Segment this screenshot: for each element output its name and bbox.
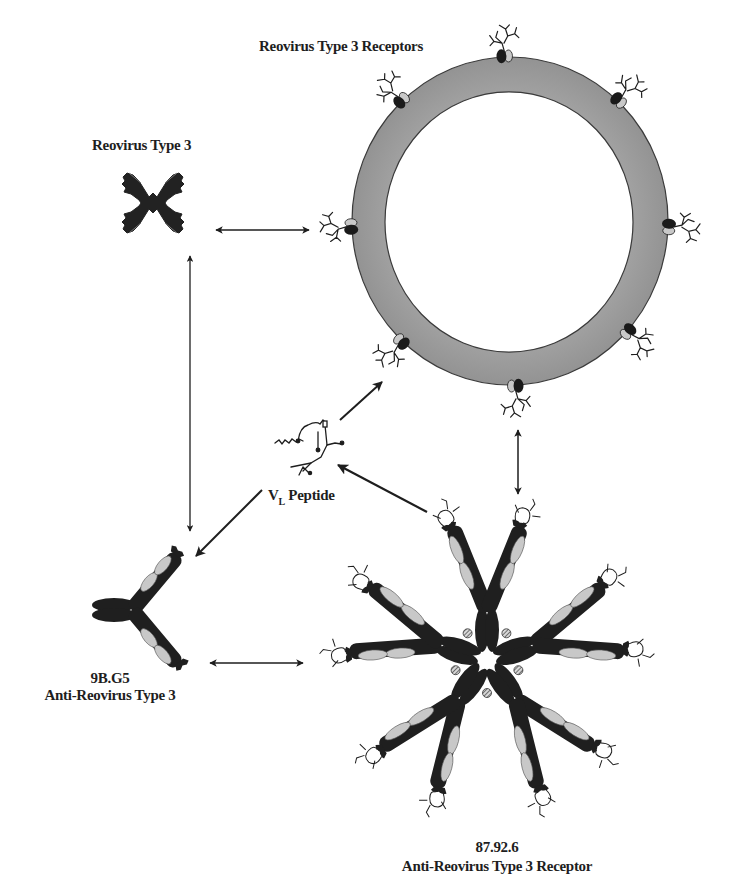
joining-link [451,666,460,675]
vl-peptide-icon [275,420,344,475]
receptors-label: Reovirus Type 3 Receptors [259,38,423,54]
pentamer-subunit [428,494,545,652]
antibody-id-label: 9B.G5 [91,670,130,686]
joining-link [483,689,492,698]
arrows [190,230,518,663]
peptide-label-v: V [268,487,279,503]
virus-label: Reovirus Type 3 [92,137,191,153]
joining-link [502,629,511,638]
antibody-name-label: Anti-Reovirus Type 3 [45,687,176,703]
arrow-pentamer-peptide [338,465,427,512]
virus-particle-icon [122,173,184,233]
antibody-87926-pentamer-icon [311,494,664,829]
arrow-peptide-receptor [340,382,382,420]
arrow-peptide-antibody [196,490,262,556]
antibody-9bg5-icon [92,544,190,675]
reovirus-idiotype-diagram: Reovirus Type 3 Receptors Reovirus Type … [0,0,736,893]
anti-id-name-label: Anti-Reovirus Type 3 Receptor [402,858,593,874]
peptide-label: VL Peptide [268,487,335,507]
anti-id-id-label: 87.92.6 [476,839,520,855]
joining-link [514,666,523,675]
joining-link [463,629,472,638]
peptide-label-rest: Peptide [285,487,335,503]
